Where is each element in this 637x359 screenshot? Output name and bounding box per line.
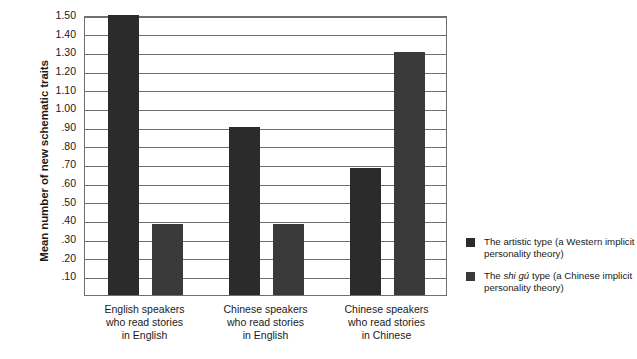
bar	[108, 15, 139, 295]
bar	[229, 127, 260, 295]
y-tick-label: 1.00	[38, 103, 76, 113]
legend-item: The shi gú type (a Chinese implicit pers…	[466, 270, 636, 295]
gridline	[85, 222, 446, 223]
y-tick-label: .40	[38, 215, 76, 225]
y-tick-label: .90	[38, 122, 76, 132]
y-tick-label: .10	[38, 271, 76, 281]
legend-label-post: personality theory)	[484, 248, 564, 259]
legend-label-pre: The artistic type (a Western implicit	[484, 236, 635, 247]
y-tick-label: .20	[38, 253, 76, 263]
y-tick-label: 1.40	[38, 29, 76, 39]
y-tick-label: 1.30	[38, 47, 76, 57]
y-tick-label: 1.20	[38, 66, 76, 76]
y-tick-label: .60	[38, 178, 76, 188]
gridline	[85, 54, 446, 55]
gridline	[85, 185, 446, 186]
plot-area	[84, 16, 447, 296]
gridline	[85, 129, 446, 130]
gridline	[85, 147, 446, 148]
legend: The artistic type (a Western implicit pe…	[466, 236, 636, 304]
gridline	[85, 241, 446, 242]
bar	[273, 224, 304, 295]
legend-label: The artistic type (a Western implicit pe…	[484, 236, 636, 261]
y-tick-label: .30	[38, 234, 76, 244]
x-category-label: Chinese speakers who read stories in Eng…	[196, 303, 336, 343]
y-tick-label: .80	[38, 141, 76, 151]
y-tick-label: 1.50	[38, 10, 76, 20]
x-category-label: Chinese speakers who read stories in Chi…	[317, 303, 457, 343]
gridline	[85, 166, 446, 167]
y-tick-label: .70	[38, 159, 76, 169]
gridline	[85, 17, 446, 18]
legend-swatch-icon	[466, 238, 475, 247]
legend-label-italic: shi gú	[503, 270, 529, 281]
bar	[394, 52, 425, 295]
gridline	[85, 259, 446, 260]
gridline	[85, 91, 446, 92]
gridline	[85, 203, 446, 204]
x-category-label: English speakers who read stories in Eng…	[75, 303, 215, 343]
bar	[350, 168, 381, 295]
y-tick-label: 1.10	[38, 85, 76, 95]
legend-swatch-icon	[466, 272, 475, 281]
gridline	[85, 278, 446, 279]
y-tick-label: .50	[38, 197, 76, 207]
gridline	[85, 73, 446, 74]
bar-chart: Mean number of new schematic traits 1.50…	[0, 0, 637, 359]
legend-label-pre: The	[484, 270, 503, 281]
gridline	[85, 110, 446, 111]
legend-label: The shi gú type (a Chinese implicit pers…	[484, 270, 636, 295]
legend-item: The artistic type (a Western implicit pe…	[466, 236, 636, 261]
gridline	[85, 35, 446, 36]
bar	[152, 224, 183, 295]
